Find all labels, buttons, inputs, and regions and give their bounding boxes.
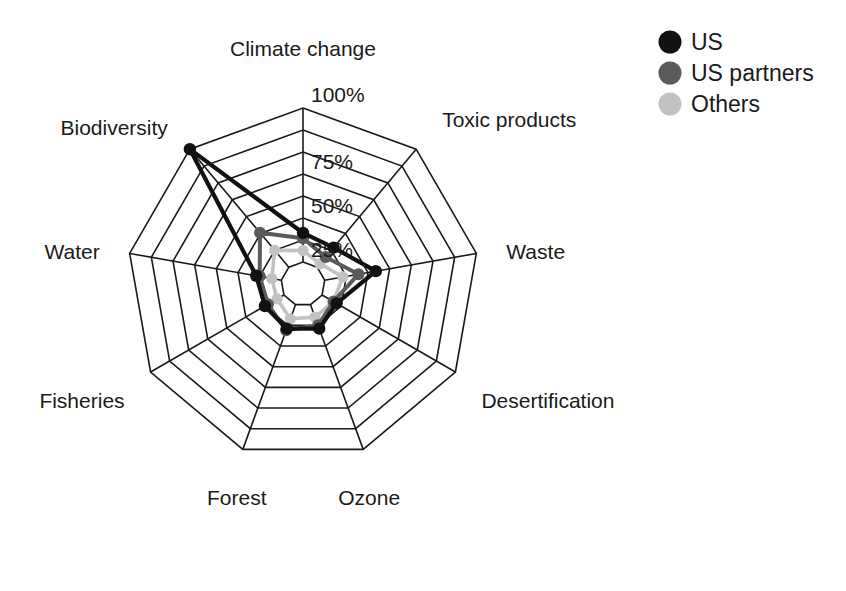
legend-item-others[interactable]: Others	[659, 91, 761, 117]
axis-label-waste: Waste	[506, 240, 565, 263]
radar-chart-svg: 25%50%75%100% Climate changeToxic produc…	[0, 0, 846, 591]
data-point-us-forest	[281, 322, 293, 334]
data-point-us-fisheries	[259, 300, 271, 312]
axis-spoke-desertification	[322, 295, 455, 372]
radial-tick-25pct: 25%	[311, 238, 353, 261]
legend-label: Others	[691, 91, 760, 117]
data-point-others-waste	[337, 271, 348, 282]
data-point-us-biodiversity	[184, 143, 196, 155]
data-point-others-biodiversity	[269, 245, 280, 256]
axis-label-water: Water	[44, 240, 99, 263]
radial-tick-50pct: 50%	[311, 194, 353, 217]
radar-chart: 25%50%75%100% Climate changeToxic produc…	[0, 0, 846, 591]
axis-labels: Climate changeToxic productsWasteDeserti…	[39, 37, 614, 509]
legend-label: US	[691, 29, 723, 55]
axis-label-climate-change: Climate change	[230, 37, 376, 60]
data-point-others-climate-change	[297, 245, 308, 256]
data-point-us-ozone	[313, 322, 325, 334]
data-point-us-waste	[370, 265, 382, 277]
legend-item-us-partners[interactable]: US partners	[659, 60, 814, 86]
data-point-others-water	[266, 273, 277, 284]
axis-label-fisheries: Fisheries	[39, 389, 124, 412]
data-point-us-partners-biodiversity	[254, 227, 266, 239]
radial-tick-100pct: 100%	[311, 83, 365, 106]
axis-label-biodiversity: Biodiversity	[60, 116, 168, 139]
data-point-us-water	[250, 270, 262, 282]
data-point-us-climate-change	[297, 227, 309, 239]
axis-label-ozone: Ozone	[338, 486, 400, 509]
chart-legend[interactable]: USUS partnersOthers	[659, 29, 814, 117]
axis-label-desertification: Desertification	[481, 389, 614, 412]
data-point-us-partners-waste	[352, 268, 364, 280]
legend-item-us[interactable]: US	[659, 29, 723, 55]
radial-tick-75pct: 75%	[311, 150, 353, 173]
legend-swatch-icon	[659, 62, 682, 85]
legend-label: US partners	[691, 60, 814, 86]
axis-label-forest: Forest	[207, 486, 267, 509]
legend-swatch-icon	[659, 93, 682, 116]
legend-swatch-icon	[659, 31, 682, 54]
data-point-us-desertification	[330, 297, 342, 309]
axis-label-toxic-products: Toxic products	[442, 108, 576, 131]
